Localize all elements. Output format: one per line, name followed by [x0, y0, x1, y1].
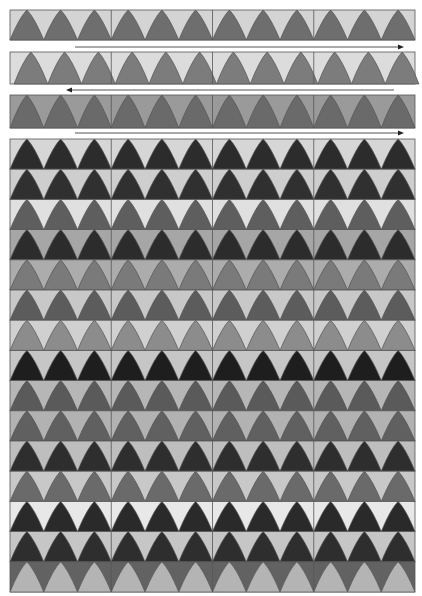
grid-row-6: [10, 290, 415, 320]
grid-row-2: [10, 169, 415, 199]
grid-row-3: [10, 199, 415, 229]
arrowhead-right-icon: [398, 131, 404, 136]
grid-row-10: [10, 411, 415, 441]
arrowhead-right-icon: [398, 45, 404, 50]
sample-strips: [10, 10, 419, 128]
grid-row-5: [10, 260, 415, 290]
sample-strip-2: [10, 52, 419, 84]
arrow-left: [66, 88, 394, 93]
grid-row-14: [10, 532, 415, 562]
grid-row-7: [10, 320, 415, 350]
triangle-grid: [10, 139, 415, 592]
sample-strip-1: [10, 10, 415, 40]
grid-row-13: [10, 501, 415, 531]
triangle-pattern-diagram: [0, 0, 422, 596]
grid-row-15: [10, 562, 415, 592]
arrowhead-left-icon: [66, 88, 72, 93]
arrow-right: [75, 131, 404, 136]
grid-row-8: [10, 350, 415, 380]
grid-row-9: [10, 381, 415, 411]
grid-row-1: [10, 139, 415, 169]
arrow-right: [75, 45, 404, 50]
sample-strip-3: [10, 95, 415, 128]
grid-row-11: [10, 441, 415, 471]
grid-row-4: [10, 230, 415, 260]
grid-row-12: [10, 471, 415, 501]
